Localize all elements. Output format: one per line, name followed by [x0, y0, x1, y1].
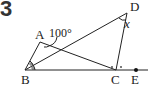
angle-arc-A — [44, 46, 49, 47]
label-x: x — [124, 17, 130, 30]
label-A: A — [35, 28, 44, 41]
label-C: C — [111, 73, 120, 85]
label-angle-A: 100° — [49, 27, 72, 39]
angle-mark-B2 — [32, 67, 34, 69]
label-E: E — [131, 73, 139, 85]
angle-mark-B1 — [30, 63, 32, 65]
label-B: B — [21, 73, 30, 85]
label-D: D — [130, 0, 139, 13]
segment-AC — [40, 42, 116, 70]
